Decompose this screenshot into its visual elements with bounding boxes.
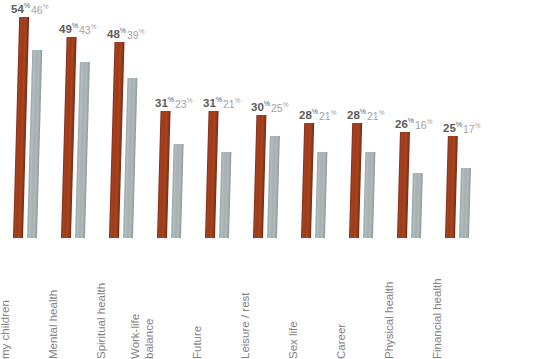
percent-sign: % (24, 2, 30, 10)
percent-sign: % (120, 27, 126, 35)
value-label-series-a: 30% (251, 101, 270, 113)
bar-series-a (397, 132, 407, 238)
category-label: Spiritual health (94, 283, 108, 359)
category-label-line: Career (334, 324, 348, 359)
value-label-series-a: 49% (59, 23, 78, 35)
percent-sign: % (475, 122, 481, 129)
bar-series-a (253, 115, 263, 238)
value-label-series-a: 28% (347, 109, 366, 121)
value-label-series-b: 39% (127, 29, 144, 40)
value-label-series-a: 31% (203, 97, 222, 109)
bar-group: 28%21% (336, 0, 384, 244)
bar-series-b (363, 152, 373, 238)
bar-group: 25%17% (432, 0, 480, 244)
category-label-line: Physical health (382, 282, 396, 359)
value-label-series-b: 16% (415, 119, 432, 130)
bar-series-b (27, 50, 37, 238)
percent-sign: % (408, 117, 414, 125)
category-label: Financial health (430, 278, 444, 359)
value-label-series-b: 46% (31, 4, 48, 15)
percent-sign: % (264, 100, 270, 108)
percent-sign: % (312, 108, 318, 116)
bar-series-b (171, 144, 181, 238)
bar-chart: 54%46%49%43%48%39%31%23%31%21%30%25%28%2… (0, 0, 541, 359)
bar-series-b (75, 62, 85, 238)
value-label-series-a: 25% (443, 122, 462, 134)
category-label: Work-lifebalance (128, 314, 156, 359)
category-label-line: Leisure / rest (238, 293, 252, 359)
percent-sign: % (456, 121, 462, 129)
bar-series-a (13, 17, 23, 238)
bar-group: 48%39% (96, 0, 144, 244)
category-label: Future (190, 326, 204, 359)
percent-sign: % (216, 96, 222, 104)
value-label-series-b: 21% (223, 98, 240, 109)
bar-series-a (349, 123, 359, 238)
category-label: Leisure / rest (238, 293, 252, 359)
value-label-series-b: 25% (271, 102, 288, 113)
value-label-series-b: 23% (175, 98, 192, 109)
category-label-line: Spiritual health (94, 283, 108, 359)
category-label: Relationship withmy children (0, 272, 12, 359)
percent-sign: % (360, 108, 366, 116)
category-label-line: Future (190, 326, 204, 359)
category-label: Mental health (46, 290, 60, 359)
bar-series-b (459, 168, 469, 238)
bar-series-a (61, 37, 71, 238)
value-label-series-a: 54% (11, 3, 30, 15)
category-axis: Relationship withmy childrenMental healt… (0, 246, 541, 359)
bar-series-a (301, 123, 311, 238)
bar-series-b (411, 173, 421, 238)
category-label-line: Sex life (286, 321, 300, 359)
bar-group: 31%21% (192, 0, 240, 244)
bar-series-a (109, 42, 119, 238)
category-label-line: Financial health (430, 278, 444, 359)
category-label-line: my children (0, 272, 12, 359)
bar-series-a (445, 136, 455, 238)
value-label-series-a: 26% (395, 118, 414, 130)
bar-group: 49%43% (48, 0, 96, 244)
bar-series-b (123, 78, 133, 238)
bar-group: 28%21% (288, 0, 336, 244)
category-label: Career (334, 324, 348, 359)
category-label-line: balance (142, 314, 156, 359)
bar-group: 30%25% (240, 0, 288, 244)
bar-group: 31%23% (144, 0, 192, 244)
plot-area: 54%46%49%43%48%39%31%23%31%21%30%25%28%2… (0, 0, 541, 244)
bar-series-b (219, 152, 229, 238)
category-label: Physical health (382, 282, 396, 359)
value-label-series-a: 31% (155, 97, 174, 109)
bar-series-b (267, 136, 277, 238)
bar-group: 26%16% (384, 0, 432, 244)
category-label: Sex life (286, 321, 300, 359)
bar-group: 54%46% (0, 0, 48, 244)
value-label-series-b: 21% (319, 110, 336, 121)
value-label-series-a: 28% (299, 109, 318, 121)
bar-series-a (205, 111, 215, 238)
value-label-series-b: 43% (79, 24, 96, 35)
value-label-series-b: 17% (463, 123, 480, 134)
bar-series-a (157, 111, 167, 238)
bar-series-b (315, 152, 325, 238)
percent-sign: % (72, 22, 78, 30)
percent-sign: % (168, 96, 174, 104)
category-label-line: Work-life (128, 314, 142, 359)
category-label-line: Mental health (46, 290, 60, 359)
value-label-series-a: 48% (107, 28, 126, 40)
value-label-series-b: 21% (367, 110, 384, 121)
